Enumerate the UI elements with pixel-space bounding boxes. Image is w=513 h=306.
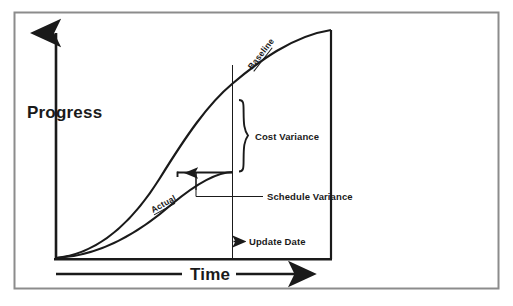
scurve-variance-diagram: Progress Time Baseline Actual Cost Varia… xyxy=(0,0,513,306)
x-axis-label: Time xyxy=(190,265,230,284)
schedule-variance-label: Schedule Variance xyxy=(267,191,353,202)
figure-container: Progress Time Baseline Actual Cost Varia… xyxy=(0,0,513,306)
update-date-label: Update Date xyxy=(249,236,306,247)
y-axis-label: Progress xyxy=(27,103,102,122)
cost-variance-label: Cost Variance xyxy=(255,131,319,142)
